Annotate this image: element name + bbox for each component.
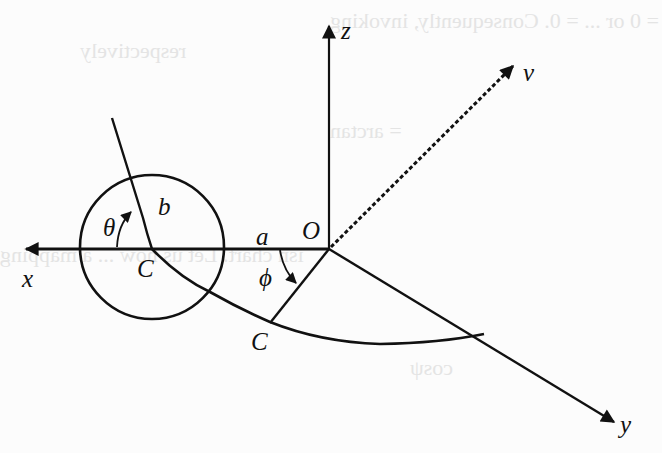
rotated-center-c-label: C (251, 329, 268, 354)
diagram-svg (0, 0, 662, 453)
radius-b-label: b (158, 194, 171, 219)
diagram-canvas: ws have either θ = 0 or ... = 0. Consequ… (0, 0, 662, 453)
theta-label: θ (103, 215, 115, 240)
center-c-label: C (137, 256, 154, 281)
z-axis-label: z (341, 18, 351, 43)
phi-arc-icon (280, 250, 296, 283)
origin-label: O (302, 218, 320, 243)
x-axis-label: x (22, 266, 33, 291)
segment-o-to-c (270, 249, 329, 323)
v-label: v (523, 60, 534, 85)
v-vector (331, 66, 513, 247)
phi-label: ϕ (259, 265, 272, 290)
y-axis-label: y (620, 412, 631, 437)
distance-a-label: a (256, 224, 269, 249)
theta-arc-icon (117, 212, 131, 247)
